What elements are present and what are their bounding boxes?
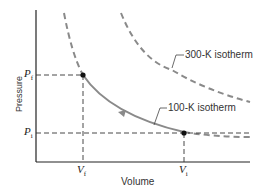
leader-100k: [154, 108, 167, 125]
isotherm-100k-upper: [64, 13, 83, 75]
isotherm-300k-label: 300-K isotherm: [185, 49, 253, 60]
pf-label: Pf: [24, 67, 33, 82]
process-arrow-icon: [118, 110, 126, 117]
pv-diagram: [0, 0, 267, 196]
pi-label: Pi: [24, 125, 33, 140]
isotherm-100k-label: 100-K isotherm: [168, 102, 236, 113]
vi-label: Vi: [179, 163, 188, 178]
final-state-point: [80, 72, 85, 77]
vf-label: Vf: [77, 163, 86, 178]
y-axis-label: Pressure: [14, 76, 24, 112]
x-axis-label: Volume: [121, 176, 154, 187]
initial-state-point: [181, 130, 186, 135]
leader-300k: [172, 55, 184, 68]
